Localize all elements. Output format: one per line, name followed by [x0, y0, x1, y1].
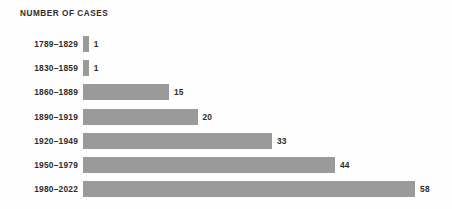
- bar-chart: NUMBER OF CASES 1789–182911830–185911860…: [0, 0, 452, 209]
- chart-plot-area: 1789–182911830–185911860–1889151890–1919…: [0, 30, 452, 205]
- bar-fill: [83, 133, 272, 149]
- bar-row: 1950–197944: [0, 157, 452, 181]
- bar-fill: [83, 60, 89, 76]
- bar-category-label: 1980–2022: [0, 181, 78, 197]
- bar-fill: [83, 109, 198, 125]
- bar-row: 1980–202258: [0, 181, 452, 205]
- bar-value-label: 44: [340, 157, 350, 173]
- bar-category-label: 1890–1919: [0, 109, 78, 125]
- bar-value-label: 20: [203, 109, 213, 125]
- bar-fill: [83, 84, 169, 100]
- bar-category-label: 1950–1979: [0, 157, 78, 173]
- bar-row: 1860–188915: [0, 84, 452, 108]
- bar-value-label: 15: [174, 84, 184, 100]
- bar-category-label: 1789–1829: [0, 36, 78, 52]
- bar-value-label: 1: [94, 36, 99, 52]
- bar-row: 1920–194933: [0, 133, 452, 157]
- bar-row: 1789–18291: [0, 36, 452, 60]
- chart-title: NUMBER OF CASES: [20, 9, 108, 19]
- bar-category-label: 1860–1889: [0, 84, 78, 100]
- bar-value-label: 58: [420, 181, 430, 197]
- bar-row: 1830–18591: [0, 60, 452, 84]
- bar-fill: [83, 181, 415, 197]
- bar-fill: [83, 36, 89, 52]
- bar-value-label: 1: [94, 60, 99, 76]
- bar-row: 1890–191920: [0, 109, 452, 133]
- bar-fill: [83, 157, 335, 173]
- bar-category-label: 1920–1949: [0, 133, 78, 149]
- bar-value-label: 33: [277, 133, 287, 149]
- bar-category-label: 1830–1859: [0, 60, 78, 76]
